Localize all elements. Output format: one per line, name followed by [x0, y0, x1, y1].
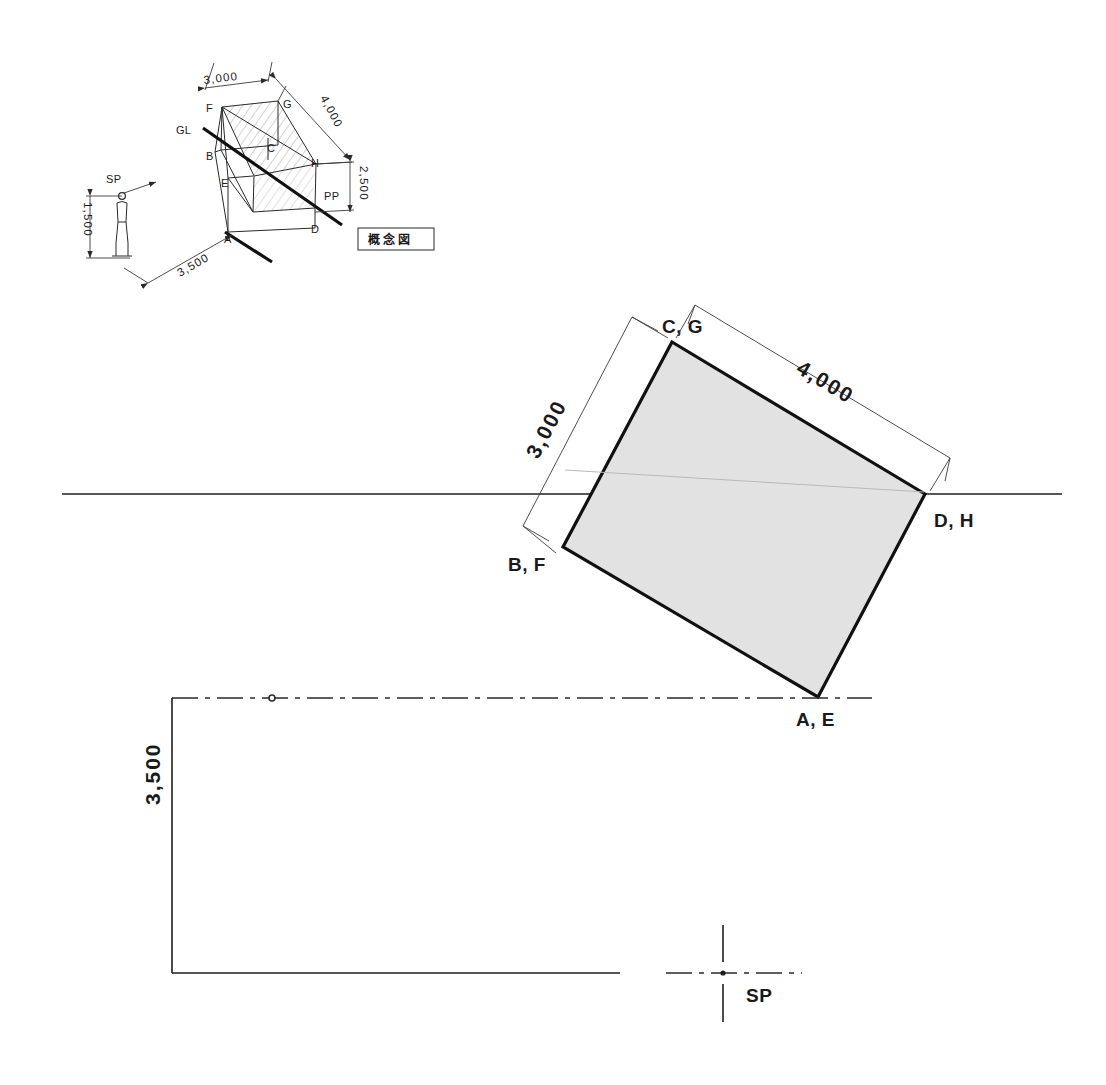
concept-dim-3500: [124, 235, 232, 283]
sp-crosshair-marker: [666, 925, 802, 1022]
concept-vertex-F: F: [206, 102, 213, 114]
concept-diagram-group: GL PP F G B C H E A D 3,000: [82, 62, 434, 283]
concept-sp-label: SP: [106, 173, 121, 185]
bottom-dimension-group: 3,500 SP: [141, 695, 872, 1022]
concept-vertex-H: H: [311, 157, 319, 169]
concept-gl-label: GL: [176, 124, 191, 136]
concept-standing-person: [112, 182, 156, 256]
plan-quad-fill: [563, 342, 925, 697]
concept-dim-3500-label: 3,500: [175, 251, 211, 279]
bottom-dim-3500-label: 3,500: [141, 742, 164, 805]
concept-vertex-D: D: [311, 223, 319, 235]
concept-vertex-B: B: [206, 150, 214, 162]
concept-dim-2500: [315, 162, 354, 212]
plan-label-DH: D, H: [934, 510, 974, 531]
sp-marker-label: SP: [746, 985, 772, 1006]
plan-label-AE: A, E: [796, 709, 835, 730]
drawing-canvas: GL PP F G B C H E A D 3,000: [0, 0, 1106, 1085]
concept-dim-2500-label: 2,500: [358, 166, 370, 201]
concept-vertex-C: C: [267, 142, 275, 154]
concept-vertex-G: G: [283, 98, 292, 110]
concept-dim-3000-label: 3,000: [203, 70, 239, 86]
concept-pp-label: PP: [324, 190, 339, 202]
concept-dim-1500-label: 1,500: [82, 202, 94, 237]
concept-dim-4000-label: 4,000: [318, 93, 345, 129]
bottom-line-node: [269, 695, 275, 701]
plan-dim-3000-label: 3,000: [521, 396, 571, 462]
technical-drawing-svg: GL PP F G B C H E A D 3,000: [0, 0, 1106, 1085]
plan-label-BF: B, F: [508, 554, 546, 575]
concept-vertex-E: E: [221, 177, 229, 189]
plan-dim-4000-label: 4,000: [793, 356, 858, 408]
plan-view-group: C, G D, H A, E B, F 3,000 4,000: [508, 305, 974, 730]
concept-title-label: 概念図: [368, 232, 413, 247]
